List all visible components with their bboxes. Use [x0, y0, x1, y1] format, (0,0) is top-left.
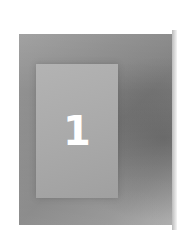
card-number-label: 1 [36, 64, 118, 198]
adjacent-card-edge [172, 30, 177, 230]
